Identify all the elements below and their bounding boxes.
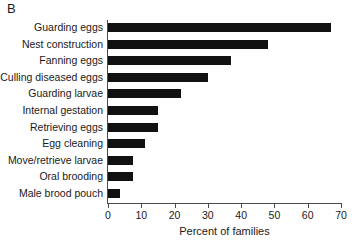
x-axis-tick (308, 204, 309, 208)
x-axis-tick (108, 204, 109, 208)
x-axis-tick (274, 204, 275, 208)
x-axis-tick-label: 10 (135, 209, 147, 221)
x-axis-tick (175, 204, 176, 208)
panel-label: B (7, 2, 16, 16)
x-axis-title: Percent of families (108, 225, 341, 238)
bar-row: Nest construction (108, 37, 341, 53)
bar (108, 89, 181, 98)
bar (108, 156, 133, 165)
x-axis-tick (208, 204, 209, 208)
bar-row: Internal gestation (108, 103, 341, 119)
category-label: Oral brooding (39, 170, 103, 183)
category-label: Move/retrieve larvae (8, 154, 103, 167)
bar (108, 40, 268, 49)
x-axis-tick-label: 20 (169, 209, 181, 221)
bar-row: Fanning eggs (108, 53, 341, 69)
x-axis-tick-label: 30 (202, 209, 214, 221)
bar-row: Culling diseased eggs (108, 70, 341, 86)
bar-row: Guarding larvae (108, 86, 341, 102)
bar (108, 23, 331, 32)
category-label: Fanning eggs (39, 54, 103, 67)
x-axis-tick (241, 204, 242, 208)
category-label: Retrieving eggs (30, 121, 103, 134)
category-label: Guarding larvae (28, 87, 103, 100)
bar (108, 189, 120, 198)
bar (108, 73, 208, 82)
bar-row: Move/retrieve larvae (108, 153, 341, 169)
x-axis-tick-label: 70 (335, 209, 347, 221)
plot-area: Guarding eggsNest constructionFanning eg… (108, 20, 341, 203)
x-axis-tick-label: 40 (235, 209, 247, 221)
bar-row: Egg cleaning (108, 136, 341, 152)
bar-row: Guarding eggs (108, 20, 341, 36)
bar (108, 56, 231, 65)
bar (108, 123, 158, 132)
category-label: Internal gestation (22, 104, 103, 117)
category-label: Nest construction (22, 38, 103, 51)
bar-row: Retrieving eggs (108, 120, 341, 136)
category-label: Male brood pouch (19, 187, 103, 200)
category-label: Culling diseased eggs (0, 71, 103, 84)
x-axis-tick-label: 0 (105, 209, 111, 221)
bar (108, 172, 133, 181)
x-axis-tick (341, 204, 342, 208)
category-label: Guarding eggs (34, 21, 103, 34)
category-label: Egg cleaning (42, 137, 103, 150)
x-axis-tick (141, 204, 142, 208)
bar-row: Male brood pouch (108, 186, 341, 202)
bar (108, 106, 158, 115)
x-axis-tick-label: 60 (302, 209, 314, 221)
figure-panel-b: B Guarding eggsNest constructionFanning … (0, 0, 353, 243)
bar-row: Oral brooding (108, 169, 341, 185)
x-axis-tick-label: 50 (269, 209, 281, 221)
bar (108, 139, 145, 148)
